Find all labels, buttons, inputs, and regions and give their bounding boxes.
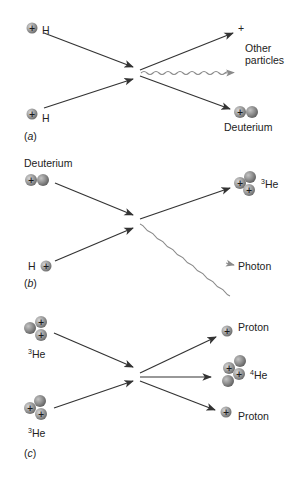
svg-text:+: + <box>43 262 50 271</box>
arrow-in-deuterium <box>55 183 133 215</box>
proton-proton-chain-diagram: + H + H (a) + Other particles + Deuteriu… <box>0 0 294 482</box>
svg-text:+: + <box>38 318 45 327</box>
proton-label-top: Proton <box>238 321 269 333</box>
panel-c: + + 3He + + 3He (c) + Proton + + <box>24 316 269 459</box>
svg-text:+: + <box>226 364 233 373</box>
arrow-in-top <box>54 333 133 367</box>
arrow-in-top <box>44 33 133 67</box>
svg-text:+: + <box>28 176 35 185</box>
arrow-out-positron <box>140 33 233 70</box>
proton-icon: + <box>221 407 232 418</box>
other-particles-label-line1: Other <box>245 42 272 54</box>
svg-text:+: + <box>38 410 45 419</box>
svg-text:+: + <box>27 404 34 413</box>
arrow-in-bottom <box>54 381 133 408</box>
proton-icon: + <box>27 23 38 34</box>
svg-text:+: + <box>237 179 244 188</box>
wavy-line-other <box>141 72 231 75</box>
proton-icon: + <box>222 326 233 337</box>
panel-a: + H + H (a) + Other particles + Deuteriu… <box>24 22 284 142</box>
svg-text:+: + <box>246 186 253 195</box>
helium3-label-input-top: 3He <box>28 348 45 360</box>
deuterium-icon: + <box>25 174 49 186</box>
svg-text:+: + <box>29 24 36 33</box>
svg-text:+: + <box>224 327 231 336</box>
input-label-h-bottom: H <box>42 112 50 124</box>
helium3-icon: + + <box>24 316 47 341</box>
svg-text:+: + <box>38 331 45 340</box>
deuterium-label-input: Deuterium <box>24 157 73 169</box>
arrow-in-bottom <box>44 79 133 108</box>
helium4-label-output: 4He <box>250 369 267 381</box>
panel-label-c: (c) <box>24 447 36 459</box>
svg-text:+: + <box>223 408 230 417</box>
helium3-icon: + + <box>24 395 47 420</box>
photon-label: Photon <box>238 260 271 272</box>
panel-b: Deuterium + H + (b) + + 3He Photon <box>24 157 278 296</box>
arrow-in-proton <box>55 228 133 261</box>
input-label-h: H <box>28 260 36 272</box>
svg-text:+: + <box>236 370 243 379</box>
arrow-head-other <box>225 73 234 74</box>
helium3-icon: + + <box>234 171 256 196</box>
proton-label-bottom: Proton <box>238 410 269 422</box>
proton-icon: + <box>41 261 52 272</box>
proton-icon: + <box>27 109 38 120</box>
arrow-out-deuterium <box>140 76 230 109</box>
wavy-line-photon <box>140 224 230 296</box>
svg-text:+: + <box>237 108 244 117</box>
svg-text:+: + <box>29 110 36 119</box>
deuterium-icon: + <box>234 106 258 118</box>
arrow-out-helium3 <box>140 188 230 219</box>
deuterium-label-output: Deuterium <box>224 121 273 133</box>
arrow-out-proton-bottom <box>140 381 215 410</box>
arrow-head-photon <box>226 263 234 265</box>
helium3-label-input-bottom: 3He <box>28 427 45 439</box>
panel-label-a: (a) <box>24 130 37 142</box>
positron-label: + <box>238 22 244 34</box>
helium3-label-output: 3He <box>261 178 278 190</box>
other-particles-label-line2: particles <box>245 54 284 66</box>
helium4-icon: + + <box>222 355 246 387</box>
arrow-out-proton-top <box>140 337 216 373</box>
panel-label-b: (b) <box>24 277 37 289</box>
